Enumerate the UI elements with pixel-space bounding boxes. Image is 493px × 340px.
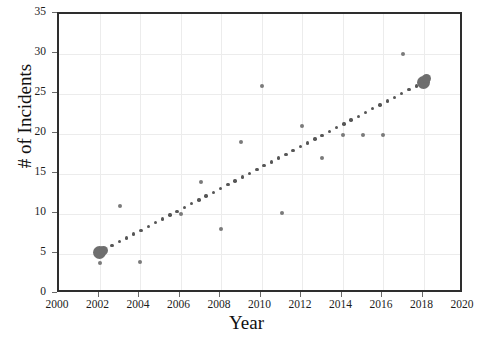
gridline-vertical	[181, 14, 182, 290]
gridline-horizontal	[59, 134, 460, 135]
y-tick-mark	[52, 292, 57, 293]
data-point	[118, 204, 122, 208]
trendline-dot	[161, 217, 164, 220]
trendline-dot	[328, 130, 331, 133]
gridline-vertical	[383, 14, 384, 290]
trendline-dot	[197, 198, 200, 201]
trendline-dot	[284, 153, 287, 156]
x-tick-mark	[422, 292, 423, 297]
x-tick-mark	[179, 292, 180, 297]
trendline-dot	[139, 229, 142, 232]
trendline-dot	[226, 183, 229, 186]
data-point	[361, 133, 365, 137]
trendline-dot	[371, 107, 374, 110]
trendline-dot	[168, 213, 171, 216]
gridline-vertical	[140, 14, 141, 290]
trendline-dot	[147, 225, 150, 228]
y-tick-mark	[52, 252, 57, 253]
trendline-dot	[118, 240, 121, 243]
y-tick-mark	[52, 172, 57, 173]
y-tick-mark	[52, 212, 57, 213]
chart-figure: 05101520253035 2000200220042006200820102…	[0, 0, 493, 340]
x-tick-mark	[300, 292, 301, 297]
x-tick-mark	[341, 292, 342, 297]
trendline-dot	[270, 160, 273, 163]
trendline-dot	[190, 202, 193, 205]
trendline-dot	[241, 175, 244, 178]
trendline-dot	[313, 137, 316, 140]
gridline-horizontal	[59, 214, 460, 215]
x-tick-mark	[381, 292, 382, 297]
trendline-dot	[277, 156, 280, 159]
trendline-dot	[386, 99, 389, 102]
data-point	[300, 124, 304, 128]
y-tick-label: 5	[6, 246, 46, 258]
y-tick-mark	[52, 132, 57, 133]
trendline-dot	[306, 141, 309, 144]
trendline-dot	[132, 232, 135, 235]
data-point	[98, 261, 102, 265]
gridline-horizontal	[59, 54, 460, 55]
x-tick-mark	[138, 292, 139, 297]
plot-area	[57, 12, 462, 292]
x-tick-mark	[98, 292, 99, 297]
trendline-dot	[262, 164, 265, 167]
data-point	[320, 156, 324, 160]
x-tick-mark	[260, 292, 261, 297]
trendline-dot	[349, 118, 352, 121]
trendline-dot	[320, 134, 323, 137]
gridline-horizontal	[59, 174, 460, 175]
y-axis-title: # of Incidents	[14, 26, 36, 206]
y-tick-label: 10	[6, 206, 46, 218]
gridline-vertical	[424, 14, 425, 290]
y-tick-label: 0	[6, 286, 46, 298]
trendline-dot	[255, 168, 258, 171]
gridline-vertical	[302, 14, 303, 290]
data-point	[239, 140, 243, 144]
trendline-dot	[291, 149, 294, 152]
gridline-horizontal	[59, 254, 460, 255]
gridline-vertical	[221, 14, 222, 290]
trendline-dot	[183, 206, 186, 209]
trendline-dot	[393, 96, 396, 99]
data-point	[341, 133, 345, 137]
y-tick-mark	[52, 92, 57, 93]
trendline-dot	[378, 103, 381, 106]
data-point	[381, 133, 385, 137]
y-tick-mark	[52, 12, 57, 13]
x-axis-title: Year	[0, 312, 493, 334]
trendline-dot	[364, 111, 367, 114]
trendline-dot	[342, 122, 345, 125]
data-point	[179, 212, 183, 216]
data-point	[199, 180, 203, 184]
x-tick-label: 2020	[432, 299, 492, 311]
y-tick-mark	[52, 52, 57, 53]
trendline-dot	[212, 191, 215, 194]
data-point	[219, 227, 223, 231]
trendline-dot	[204, 194, 207, 197]
trendline-dot	[110, 244, 113, 247]
trendline-dot	[357, 115, 360, 118]
trendline-dot	[233, 179, 236, 182]
trendline-dot	[125, 236, 128, 239]
data-point	[401, 52, 405, 56]
trendline-dot	[154, 221, 157, 224]
gridline-vertical	[343, 14, 344, 290]
trendline-dot	[335, 126, 338, 129]
y-tick-label: 35	[6, 6, 46, 18]
data-point	[280, 211, 284, 215]
data-point	[260, 84, 264, 88]
gridline-vertical	[262, 14, 263, 290]
x-tick-mark	[219, 292, 220, 297]
data-point	[138, 260, 142, 264]
trendline-dot	[407, 88, 410, 91]
